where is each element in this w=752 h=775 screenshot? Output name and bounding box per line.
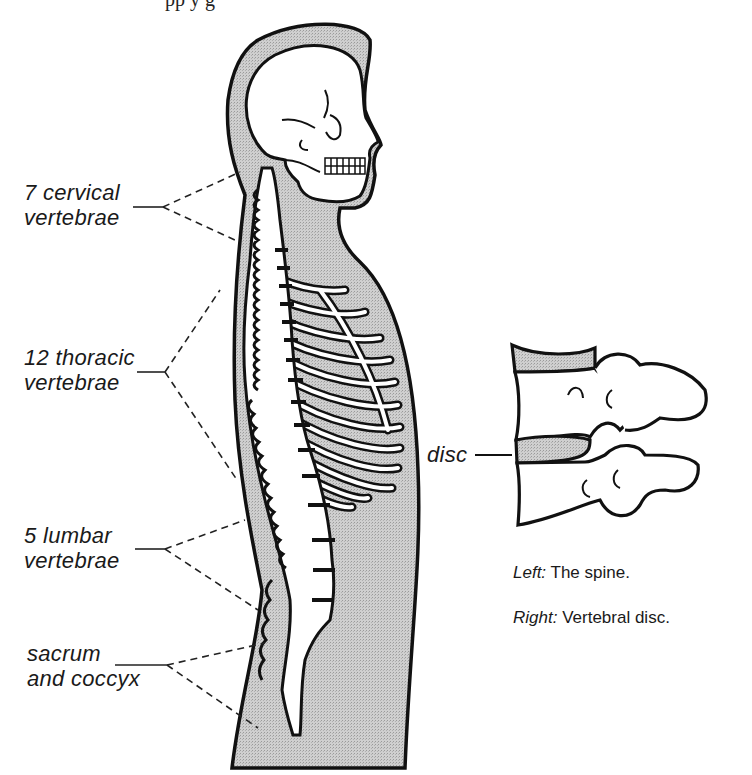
label-lumbar-line2: vertebrae: [24, 548, 120, 573]
label-sacrum-line1: sacrum: [27, 641, 140, 666]
label-cervical-line2: vertebrae: [24, 205, 120, 230]
caption-right-prefix: Right:: [513, 608, 557, 627]
caption-left-text: The spine.: [546, 563, 630, 582]
spine-figure: pp y g: [0, 0, 752, 775]
label-cervical-line1: 7 cervical: [24, 180, 120, 205]
teeth: [325, 158, 365, 174]
caption-right: Right: Vertebral disc.: [513, 608, 670, 628]
label-lumbar-line1: 5 lumbar: [24, 523, 120, 548]
label-sacrum: sacrum and coccyx: [27, 641, 140, 691]
label-thoracic-line2: vertebrae: [24, 370, 135, 395]
label-cervical: 7 cervical vertebrae: [24, 180, 120, 230]
label-disc: disc: [427, 442, 467, 467]
label-lumbar: 5 lumbar vertebrae: [24, 523, 120, 573]
label-sacrum-line2: and coccyx: [27, 666, 140, 691]
label-thoracic: 12 thoracic vertebrae: [24, 345, 135, 395]
label-thoracic-line1: 12 thoracic: [24, 345, 135, 370]
caption-right-text: Vertebral disc.: [557, 608, 669, 627]
vertebral-disc-illustration: [512, 345, 706, 525]
caption-left: Left: The spine.: [513, 563, 630, 583]
caption-left-prefix: Left:: [513, 563, 546, 582]
